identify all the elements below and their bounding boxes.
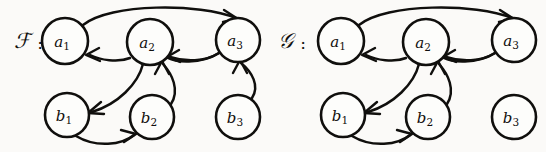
graph-pair-diagram: ℱ : bbox=[0, 0, 546, 152]
graph-F-nodes: a1 a2 a3 b1 bbox=[42, 18, 260, 139]
node-F-b2[interactable]: b2 bbox=[130, 95, 174, 139]
node-G-a2[interactable]: a2 bbox=[403, 19, 449, 65]
node-F-a2[interactable]: a2 bbox=[127, 19, 173, 65]
graph-G-name: 𝒢 bbox=[278, 29, 296, 53]
graph-G: 𝒢 : bbox=[278, 8, 537, 144]
graph-F-name: ℱ bbox=[14, 29, 34, 53]
node-G-b3[interactable]: b3 bbox=[492, 95, 536, 139]
graph-G-separator: : bbox=[300, 33, 306, 53]
edge-b3-to-a3 bbox=[233, 60, 255, 98]
edge-b1-to-b2 bbox=[76, 130, 136, 144]
node-F-b1[interactable]: b1 bbox=[45, 93, 89, 137]
node-F-b3[interactable]: b3 bbox=[216, 95, 260, 139]
edge-a3-to-a2 bbox=[167, 50, 219, 62]
figure-canvas: ℱ : bbox=[0, 0, 546, 152]
edge-b1-to-b2 bbox=[352, 130, 412, 144]
node-G-b2[interactable]: b2 bbox=[406, 95, 450, 139]
graph-G-nodes: a1 a2 a3 b1 bbox=[318, 18, 536, 139]
node-G-a3[interactable]: a3 bbox=[492, 18, 536, 62]
node-G-a1[interactable]: a1 bbox=[318, 18, 364, 64]
node-G-b1[interactable]: b1 bbox=[321, 93, 365, 137]
node-F-a3[interactable]: a3 bbox=[216, 18, 260, 62]
node-F-a1[interactable]: a1 bbox=[42, 18, 88, 64]
edge-a3-to-a2 bbox=[443, 50, 495, 62]
graph-F: ℱ : bbox=[14, 8, 261, 144]
